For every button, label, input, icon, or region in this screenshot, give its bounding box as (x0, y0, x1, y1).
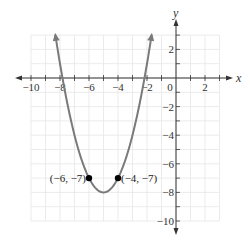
x-axis-label: x (235, 71, 242, 85)
y-tick-label: −10 (157, 215, 175, 227)
x-axis-right-arrow-icon (226, 76, 233, 81)
y-tick-label: −6 (162, 158, 174, 170)
curve-left-arrow-icon (53, 33, 60, 41)
x-tick-label: 2 (202, 81, 208, 93)
y-axis-up-arrow-icon (174, 19, 179, 26)
y-tick-label: −2 (162, 101, 174, 113)
x-tick-label: −6 (83, 81, 95, 93)
x-tick-label: 0 (167, 81, 173, 93)
y-tick-label: −4 (162, 129, 174, 141)
y-tick-label: 2 (169, 43, 175, 55)
y-axis-down-arrow-icon (174, 228, 179, 235)
parabola-graph: −10−8−6−4−2022−2−4−6−8−10 x y (−6, −7)(−… (0, 0, 250, 241)
curve-right-arrow-icon (147, 33, 154, 41)
point-label: (−4, −7) (121, 172, 158, 185)
y-tick-label: −8 (162, 186, 174, 198)
point-marker (86, 175, 92, 181)
x-tick-label: −10 (22, 81, 40, 93)
y-axis-label: y (172, 6, 179, 20)
x-tick-label: −4 (112, 81, 124, 93)
point-label: (−6, −7) (50, 172, 87, 185)
x-axis-left-arrow-icon (15, 76, 22, 81)
